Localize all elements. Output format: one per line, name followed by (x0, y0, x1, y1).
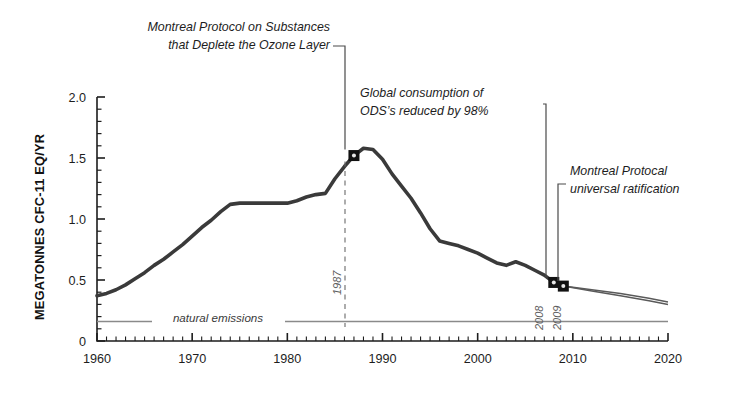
leader-line-global-consumption (543, 104, 546, 277)
data-marker-center-1987 (352, 154, 356, 158)
y-tick-label: 0.5 (68, 274, 86, 288)
x-tick-label: 2000 (464, 352, 492, 366)
x-tick-label: 2010 (559, 352, 587, 366)
year-label-1987: 1987 (331, 270, 343, 295)
annotation-universal-ratification-line1: Montreal Protocal (570, 164, 668, 178)
x-tick-label: 2020 (654, 352, 682, 366)
axis-layer (97, 97, 668, 341)
data-marker-center-2009 (561, 284, 565, 288)
year-label-2008: 2008 (533, 305, 545, 331)
axis-spines (97, 97, 668, 341)
annotation-montreal-protocol-line2: that Deplete the Ozone Layer (168, 38, 331, 52)
data-marker-center-2008 (552, 280, 556, 284)
leader-line-montreal-protocol (333, 46, 345, 150)
y-tick-label: 1.0 (68, 213, 86, 227)
ods-consumption-line-chart: MEGATONNES CFC-11 EQ/YR 2.01.51.00.50 19… (0, 0, 735, 393)
annotation-global-consumption-line2: ODS’s reduced by 98% (360, 104, 489, 118)
natural-emissions-label: natural emissions (173, 311, 263, 324)
annotation-montreal-protocol-line1: Montreal Protocol on Substances (147, 20, 330, 34)
y-tick-labels: 2.01.51.00.50 (68, 91, 86, 349)
projection-series-line-2 (563, 286, 668, 304)
x-tick-label: 1990 (368, 352, 396, 366)
x-tick-label: 1960 (83, 352, 111, 366)
chart-figure: MEGATONNES CFC-11 EQ/YR 2.01.51.00.50 19… (0, 0, 735, 393)
x-tick-labels: 1960197019801990200020102020 (83, 352, 682, 366)
leader-line-universal-ratification (558, 184, 566, 281)
annotation-universal-ratification-line2: universal ratification (570, 182, 680, 196)
x-tick-label: 1980 (273, 352, 301, 366)
y-axis-label: MEGATONNES CFC-11 EQ/YR (32, 134, 47, 320)
annotation-global-consumption-line1: Global consumption of (360, 86, 485, 100)
year-label-2009: 2009 (551, 306, 563, 331)
y-tick-label: 1.5 (68, 152, 86, 166)
x-tick-label: 1970 (178, 352, 206, 366)
y-tick-label: 0 (79, 335, 86, 349)
y-tick-label: 2.0 (68, 91, 86, 105)
